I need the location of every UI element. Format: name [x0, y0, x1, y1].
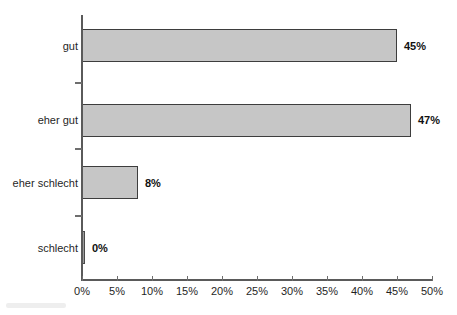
x-tick-25 — [257, 276, 258, 281]
x-tick-label-15: 15% — [176, 285, 198, 297]
value-label-gut: 45% — [404, 40, 426, 52]
x-tick-label-45: 45% — [386, 285, 408, 297]
category-tick-3 — [75, 215, 82, 217]
category-tick-1 — [75, 82, 82, 84]
x-tick-label-25: 25% — [246, 285, 268, 297]
x-tick-50 — [432, 276, 433, 281]
value-label-schlecht: 0% — [92, 242, 108, 254]
x-tick-label-0: 0% — [74, 285, 90, 297]
x-tick-30 — [292, 276, 293, 281]
x-tick-label-10: 10% — [141, 285, 163, 297]
x-tick-label-5: 5% — [109, 285, 125, 297]
x-tick-5 — [117, 276, 118, 281]
category-label-eher-gut: eher gut — [0, 114, 78, 126]
category-label-gut: gut — [0, 40, 78, 52]
category-label-schlecht: schlecht — [0, 242, 78, 254]
category-label-eher-schlecht: eher schlecht — [0, 177, 78, 189]
x-tick-label-40: 40% — [351, 285, 373, 297]
value-label-eher-gut: 47% — [418, 114, 440, 126]
scan-artifact — [6, 303, 66, 308]
x-tick-40 — [362, 276, 363, 281]
value-label-eher-schlecht: 8% — [145, 177, 161, 189]
x-tick-35 — [327, 276, 328, 281]
x-tick-20 — [222, 276, 223, 281]
x-tick-label-20: 20% — [211, 285, 233, 297]
plot-area — [82, 16, 432, 280]
x-tick-15 — [187, 276, 188, 281]
x-tick-10 — [152, 276, 153, 281]
x-tick-45 — [397, 276, 398, 281]
category-tick-2 — [75, 148, 82, 150]
x-tick-0 — [82, 276, 83, 281]
x-tick-label-50: 50% — [421, 285, 443, 297]
x-tick-label-30: 30% — [281, 285, 303, 297]
x-tick-label-35: 35% — [316, 285, 338, 297]
bar-chart: gut eher gut eher schlecht schlecht 45% … — [0, 0, 457, 315]
